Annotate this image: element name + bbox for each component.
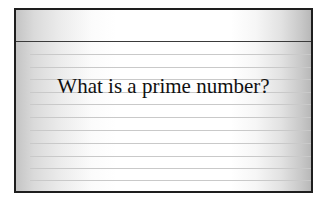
card-header-band bbox=[16, 10, 311, 41]
header-divider bbox=[16, 41, 311, 42]
flashcard[interactable]: What is a prime number? bbox=[14, 8, 313, 193]
ruled-line bbox=[30, 104, 311, 105]
ruled-line bbox=[30, 67, 311, 68]
ruled-line bbox=[30, 117, 311, 118]
ruled-line bbox=[30, 130, 311, 131]
ruled-line bbox=[30, 143, 311, 144]
ruled-line bbox=[30, 54, 311, 55]
ruled-line bbox=[30, 180, 311, 181]
ruled-line bbox=[30, 168, 311, 169]
ruled-line bbox=[30, 156, 311, 157]
question-text: What is a prime number? bbox=[16, 74, 311, 98]
